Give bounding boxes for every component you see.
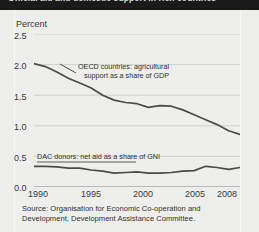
source-note: Source: Organisation for Economic Co-ope… bbox=[22, 204, 248, 224]
x-tick-label: 2000 bbox=[133, 189, 153, 199]
x-tick-label: 2008 bbox=[217, 189, 237, 199]
annotation-dac: DAC donors: net aid as a share of GNI bbox=[37, 153, 160, 162]
x-tick-label: 1995 bbox=[81, 189, 101, 199]
annotation-oecd: OECD countries: agricultural support as … bbox=[78, 63, 169, 80]
x-tick-label: 1990 bbox=[28, 189, 48, 199]
x-tick-label: 2005 bbox=[185, 189, 205, 199]
figure-container: Official aid and domestic support in ric… bbox=[0, 0, 259, 232]
